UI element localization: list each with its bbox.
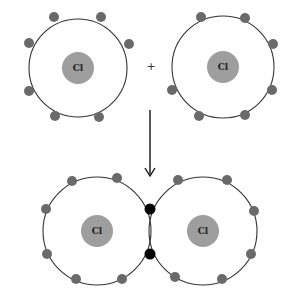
element-label: Cl xyxy=(218,62,229,72)
electron xyxy=(222,175,232,185)
electron xyxy=(268,39,278,49)
shared-electron xyxy=(145,249,156,260)
shared-electron xyxy=(145,204,156,215)
electron xyxy=(49,12,59,22)
electron xyxy=(42,249,52,259)
electron xyxy=(246,249,256,259)
electron xyxy=(24,86,34,96)
element-label-right: Cl xyxy=(198,226,209,236)
electron xyxy=(217,274,227,284)
down-arrow-icon xyxy=(145,110,155,176)
electron xyxy=(96,12,106,22)
electron xyxy=(196,12,206,22)
electron xyxy=(267,85,277,95)
electron xyxy=(41,204,51,214)
electron xyxy=(167,85,177,95)
electron xyxy=(173,175,183,185)
element-label-left: Cl xyxy=(92,226,103,236)
electron xyxy=(194,111,204,121)
chlorine-bond-diagram: Cl + Cl Cl Cl xyxy=(0,0,293,303)
product-molecule: Cl Cl xyxy=(41,173,259,285)
electron xyxy=(67,176,77,186)
electron xyxy=(240,13,250,23)
electron xyxy=(50,111,60,121)
electron xyxy=(94,112,104,122)
electron xyxy=(24,38,34,48)
electron xyxy=(170,272,180,282)
element-label: Cl xyxy=(73,63,84,73)
reactant-atom-2: Cl xyxy=(167,12,278,121)
electron xyxy=(240,110,250,120)
plus-sign: + xyxy=(146,60,155,73)
electron xyxy=(117,274,127,284)
reactant-atom-1: Cl xyxy=(24,12,134,122)
electron xyxy=(249,206,259,216)
electron xyxy=(124,39,134,49)
electron xyxy=(112,173,122,183)
electron xyxy=(71,274,81,284)
